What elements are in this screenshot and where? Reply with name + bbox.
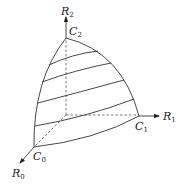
level-curve (35, 99, 134, 126)
axis-r0-arrow (20, 147, 34, 163)
hidden-axis-r0 (35, 115, 66, 146)
label-r0: R0 (11, 167, 25, 181)
level-curve (42, 63, 111, 82)
label-r2: R2 (60, 5, 74, 19)
diagram-canvas: R2 C2 R1 C1 C0 R0 (0, 0, 183, 184)
arc-c2-c0 (34, 38, 66, 147)
label-c1: C1 (135, 120, 148, 134)
label-r1: R1 (162, 110, 176, 124)
arc-c2-c1 (66, 38, 139, 116)
labels: R2 C2 R1 C1 C0 R0 (11, 5, 176, 181)
boundary-arcs (34, 38, 139, 147)
level-curve (38, 80, 124, 103)
hidden-axes (35, 40, 138, 146)
label-c0: C0 (33, 150, 46, 164)
label-c2: C2 (69, 25, 82, 39)
level-curves (34, 51, 134, 128)
level-curve (49, 51, 98, 65)
